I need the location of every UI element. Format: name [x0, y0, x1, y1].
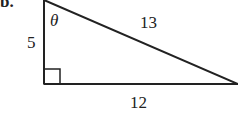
right-triangle-figure: [0, 0, 238, 117]
side-hypotenuse-label: 13: [140, 14, 157, 31]
side-horizontal-label: 12: [130, 94, 147, 111]
side-vertical-label: 5: [27, 34, 36, 51]
right-angle-marker: [44, 69, 60, 84]
angle-theta-label: θ: [50, 12, 58, 29]
